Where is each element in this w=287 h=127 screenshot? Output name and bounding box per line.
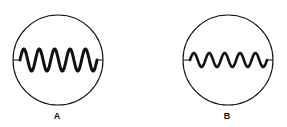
wave-a — [20, 49, 97, 71]
wave-comparison-diagram: A B — [0, 0, 287, 127]
label-b: B — [224, 111, 231, 121]
label-a: A — [54, 111, 61, 121]
diagram-a: A — [13, 15, 103, 121]
diagram-b: B — [183, 15, 273, 121]
wave-b — [190, 53, 267, 67]
